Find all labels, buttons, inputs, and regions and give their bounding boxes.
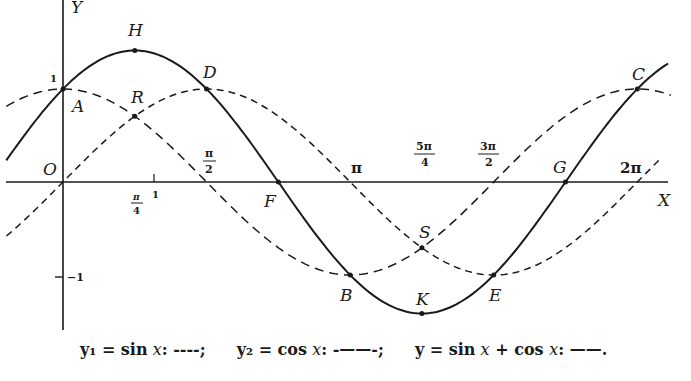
svg-text:4: 4 bbox=[421, 156, 429, 169]
y-tick-label-1: 1 bbox=[50, 73, 57, 84]
point-label-g: G bbox=[553, 157, 567, 177]
point-d bbox=[204, 87, 209, 92]
svg-text:π: π bbox=[205, 147, 213, 160]
point-b bbox=[348, 273, 353, 278]
x-tick-5pi-over-4: 5π 4 bbox=[414, 140, 435, 169]
point-label-c: C bbox=[632, 64, 645, 84]
svg-text:4: 4 bbox=[133, 205, 140, 216]
point-label-d: D bbox=[202, 62, 217, 82]
y-axis-label: Y bbox=[71, 0, 84, 17]
point-label-a: A bbox=[70, 96, 84, 116]
svg-text:2: 2 bbox=[485, 156, 493, 169]
point-label-h: H bbox=[127, 20, 144, 40]
x-tick-label-2pi: 2π bbox=[620, 159, 641, 177]
legend-sin: y₁ = sin x: ----; bbox=[80, 340, 206, 359]
point-label-e: E bbox=[488, 285, 502, 305]
x-tick-3pi-over-2: 3π 2 bbox=[478, 140, 499, 169]
point-s bbox=[419, 245, 424, 250]
y-tick-label-minus1: −1 bbox=[67, 271, 84, 284]
point-label-s: S bbox=[419, 222, 431, 242]
point-c bbox=[635, 87, 640, 92]
point-label-f: F bbox=[263, 191, 277, 211]
point-g bbox=[563, 180, 568, 185]
x-tick-pi-over-4: π 4 bbox=[131, 192, 143, 216]
svg-text:5π: 5π bbox=[416, 140, 432, 153]
origin-label: O bbox=[43, 159, 57, 179]
point-r bbox=[132, 114, 137, 119]
legend-sum: y = sin x + cos x: ——. bbox=[415, 340, 607, 359]
x-axis-label: X bbox=[656, 190, 671, 210]
x-tick-label-1: 1 bbox=[152, 189, 159, 200]
svg-text:2: 2 bbox=[205, 163, 213, 176]
svg-text:3π: 3π bbox=[480, 140, 496, 153]
trig-sum-diagram: Y X O 1 −1 π 4 1 π 2 π 5π 4 3π 2 2π A H … bbox=[0, 0, 691, 381]
point-h bbox=[132, 48, 137, 53]
point-label-b: B bbox=[339, 285, 353, 305]
point-e bbox=[491, 273, 496, 278]
point-a bbox=[61, 87, 66, 92]
x-tick-label-pi: π bbox=[351, 159, 362, 177]
point-k bbox=[419, 311, 424, 316]
legend-cos: y₂ = cos x: -——-; bbox=[237, 340, 384, 359]
x-tick-pi-over-2: π 2 bbox=[203, 147, 216, 176]
point-label-r: R bbox=[130, 87, 144, 107]
point-f bbox=[276, 180, 281, 185]
legend: y₁ = sin x: ----; y₂ = cos x: -——-; y = … bbox=[80, 340, 633, 359]
point-label-k: K bbox=[415, 289, 430, 309]
svg-text:π: π bbox=[132, 192, 140, 202]
